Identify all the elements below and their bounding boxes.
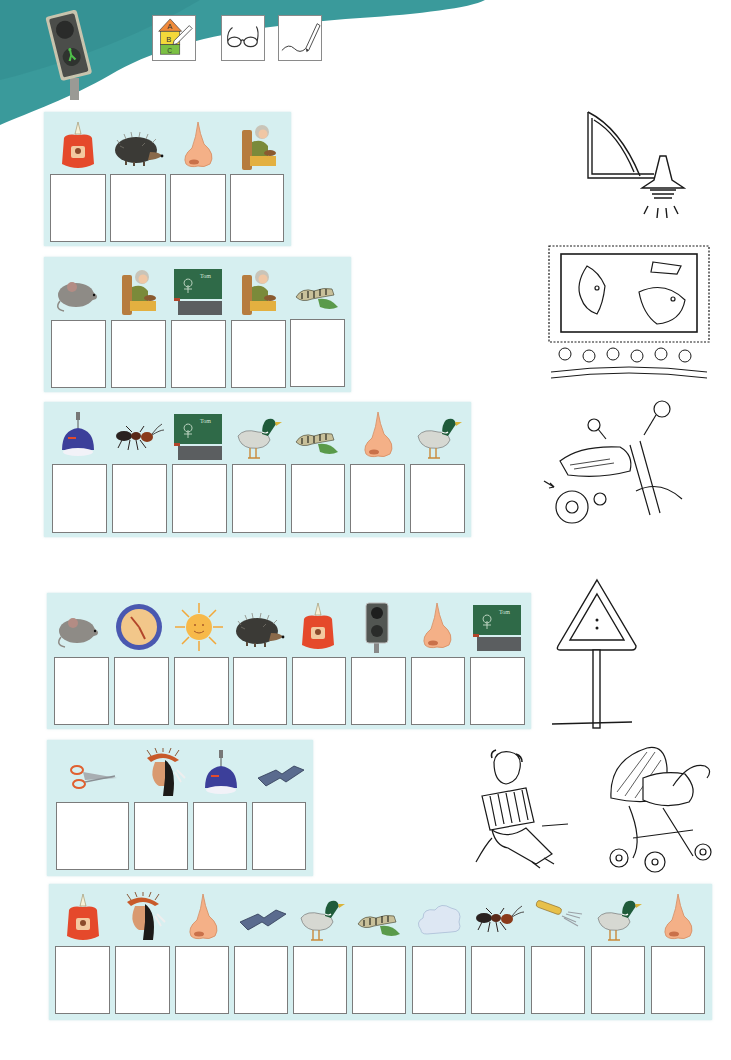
nose-icon (350, 406, 406, 462)
exercise-panel-2 (44, 257, 351, 392)
blackboard-icon (170, 261, 226, 317)
domino-icon (252, 744, 308, 800)
answer-box[interactable] (56, 802, 129, 870)
exercise-panel-6 (49, 884, 712, 1020)
nose-icon (650, 888, 706, 944)
exercise-panel-5 (47, 740, 313, 876)
svg-text:A: A (167, 22, 173, 31)
duck-icon (293, 888, 349, 944)
answer-box[interactable] (171, 320, 226, 388)
mouse-icon (50, 261, 106, 317)
answer-box[interactable] (411, 657, 465, 725)
answer-box[interactable] (350, 464, 405, 533)
answer-box[interactable] (114, 657, 169, 725)
answer-box[interactable] (175, 946, 229, 1014)
clock-icon (111, 597, 167, 653)
nose-icon (175, 888, 231, 944)
glasses-icon (221, 15, 265, 61)
answer-box[interactable] (293, 946, 347, 1014)
svg-text:B: B (166, 35, 171, 44)
accordion-player-sketch: Akkordeon (472, 748, 572, 870)
duck-icon (410, 406, 466, 462)
native-chief-icon (135, 744, 191, 800)
traffic-light-icon (349, 597, 405, 653)
answer-box[interactable] (55, 946, 110, 1014)
answer-box[interactable] (352, 946, 406, 1014)
answer-box[interactable] (412, 946, 466, 1014)
hedgehog-icon (110, 116, 166, 172)
answer-box[interactable] (172, 464, 227, 533)
wall-lamp-sketch: Wandlampe (580, 108, 690, 228)
answer-box[interactable] (234, 946, 288, 1014)
answer-box[interactable] (292, 657, 346, 725)
answer-box[interactable] (193, 802, 247, 870)
answer-box[interactable] (471, 946, 525, 1014)
sun-icon (171, 597, 227, 653)
answer-box[interactable] (51, 320, 106, 388)
caterpillar-icon (352, 888, 408, 944)
nose-icon (170, 116, 226, 172)
answer-box[interactable] (252, 802, 306, 870)
ant-icon (110, 406, 166, 462)
answer-box[interactable] (531, 946, 585, 1014)
answer-box[interactable] (110, 174, 166, 242)
answer-box[interactable] (134, 802, 188, 870)
ant-icon (470, 888, 526, 944)
answer-box[interactable] (410, 464, 465, 533)
pencil-writing-icon (278, 15, 322, 61)
answer-box[interactable] (291, 464, 345, 533)
lamp-icon (50, 406, 106, 462)
answer-box[interactable] (651, 946, 705, 1014)
candle-icon (290, 597, 346, 653)
answer-box[interactable] (170, 174, 226, 242)
answer-box[interactable] (290, 319, 345, 387)
answer-box[interactable] (112, 464, 167, 533)
answer-box[interactable] (351, 657, 406, 725)
exercise-panel-4 (47, 593, 531, 729)
answer-box[interactable] (54, 657, 109, 725)
exercise-panel-3 (44, 402, 471, 537)
domino-icon (234, 888, 290, 944)
blackboard-icon (170, 406, 226, 462)
duck-icon (590, 888, 646, 944)
answer-box[interactable] (52, 464, 107, 533)
answer-box[interactable] (230, 174, 284, 242)
traffic-light-logo-icon (45, 8, 95, 100)
duck-icon (230, 406, 286, 462)
svg-text:C: C (167, 47, 172, 54)
candle-icon (55, 888, 111, 944)
grandma-icon (230, 116, 286, 172)
answer-box[interactable] (174, 657, 229, 725)
answer-box[interactable] (231, 320, 286, 388)
answer-box[interactable] (50, 174, 106, 242)
caterpillar-icon (290, 406, 346, 462)
exercise-panel-1 (44, 112, 291, 246)
native-chief-icon (115, 888, 171, 944)
abc-house-pencil-icon: A B C (152, 15, 196, 61)
candle-icon (50, 116, 106, 172)
answer-box[interactable] (233, 657, 287, 725)
motorcycle-sketch: Motorrad (540, 395, 685, 530)
answer-box[interactable] (111, 320, 166, 388)
answer-box[interactable] (232, 464, 286, 533)
hedgehog-icon (231, 597, 287, 653)
nose-icon (409, 597, 465, 653)
answer-box[interactable] (591, 946, 645, 1014)
blackboard-icon (469, 597, 525, 653)
mouse-icon (51, 597, 107, 653)
caterpillar-icon (290, 261, 346, 317)
cloud-icon (411, 888, 467, 944)
lamp-icon (193, 744, 249, 800)
answer-box[interactable] (470, 657, 525, 725)
fork-icon (530, 888, 586, 944)
warning-sign-sketch: Verkehrsschild (552, 578, 642, 734)
grandma-icon (230, 261, 286, 317)
stroller-sketch: Kinderwagen (603, 740, 715, 876)
answer-box[interactable] (115, 946, 170, 1014)
cinema-sketch: Kino (545, 244, 713, 380)
grandma-icon (110, 261, 166, 317)
scissors-icon (61, 744, 125, 800)
